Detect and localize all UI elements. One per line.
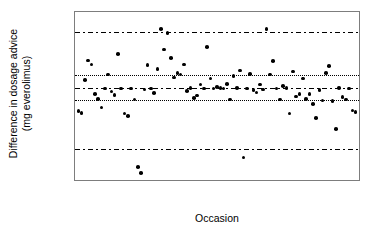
data-point bbox=[301, 77, 305, 81]
data-point bbox=[298, 92, 302, 96]
data-point bbox=[126, 114, 130, 118]
data-point bbox=[265, 27, 269, 31]
data-point bbox=[100, 106, 104, 110]
data-point bbox=[179, 73, 183, 77]
data-point bbox=[90, 63, 94, 67]
data-point bbox=[311, 102, 315, 106]
data-point bbox=[136, 165, 140, 169]
x-axis-tick bbox=[306, 180, 307, 181]
reference-line-lower-ci bbox=[75, 100, 359, 101]
data-point bbox=[275, 87, 279, 91]
data-point bbox=[116, 52, 120, 56]
data-point bbox=[291, 70, 295, 74]
data-point bbox=[242, 156, 246, 160]
data-point bbox=[238, 69, 242, 73]
data-point bbox=[199, 83, 203, 87]
data-point bbox=[143, 88, 147, 92]
y-axis-minor-tick bbox=[74, 51, 75, 52]
data-point bbox=[337, 86, 341, 90]
x-axis-tick bbox=[240, 180, 241, 181]
data-point bbox=[156, 67, 160, 71]
y-axis-title-wrapper: Difference in dosage advice (mg everolim… bbox=[0, 0, 40, 186]
data-point bbox=[172, 76, 176, 80]
data-point bbox=[261, 88, 265, 92]
data-point bbox=[185, 89, 189, 93]
y-axis-minor-tick bbox=[74, 129, 75, 130]
data-point bbox=[288, 112, 292, 116]
data-point bbox=[103, 87, 107, 91]
data-point bbox=[321, 99, 325, 103]
data-point bbox=[245, 87, 249, 91]
y-axis-tick bbox=[74, 32, 75, 33]
data-point bbox=[182, 63, 186, 67]
y-axis-title-line1: Difference in dosage advice bbox=[8, 28, 20, 157]
data-point bbox=[149, 87, 153, 91]
y-axis-tick bbox=[74, 71, 75, 72]
data-point bbox=[258, 83, 262, 87]
data-point bbox=[209, 77, 213, 81]
data-point bbox=[255, 91, 259, 95]
data-point bbox=[195, 94, 199, 98]
data-point bbox=[225, 82, 229, 86]
data-point bbox=[146, 63, 150, 67]
data-point bbox=[334, 127, 338, 131]
reference-line-lower-limit-of-agreement bbox=[75, 149, 359, 150]
data-point bbox=[248, 72, 252, 76]
data-point bbox=[169, 56, 173, 60]
reference-line-upper-ci bbox=[75, 75, 359, 76]
data-point bbox=[344, 98, 348, 102]
data-point bbox=[285, 86, 289, 90]
y-axis-minor-tick bbox=[74, 90, 75, 91]
data-point bbox=[205, 45, 209, 49]
scatter-plot-figure: Difference in dosage advice (mg everolim… bbox=[0, 0, 368, 236]
data-point bbox=[139, 171, 143, 175]
x-axis-tick bbox=[339, 180, 340, 181]
data-point bbox=[327, 64, 331, 68]
x-axis-tick bbox=[207, 180, 208, 181]
data-point bbox=[235, 86, 239, 90]
data-point bbox=[308, 92, 312, 96]
data-point bbox=[271, 59, 275, 63]
x-axis-tick bbox=[273, 180, 274, 181]
x-axis-title: Occasion bbox=[74, 212, 360, 224]
data-point bbox=[318, 88, 322, 92]
data-point bbox=[278, 98, 282, 102]
y-axis-tick bbox=[74, 149, 75, 150]
data-point bbox=[354, 110, 358, 114]
data-point bbox=[83, 78, 87, 82]
data-point bbox=[304, 97, 308, 101]
data-point bbox=[152, 91, 156, 95]
data-point bbox=[106, 73, 110, 77]
data-point bbox=[119, 87, 123, 91]
reference-line-upper-limit-of-agreement bbox=[75, 32, 359, 33]
data-point bbox=[347, 87, 351, 91]
data-point bbox=[86, 59, 90, 63]
x-axis-tick bbox=[141, 180, 142, 181]
data-point bbox=[314, 116, 318, 120]
data-point bbox=[113, 93, 117, 97]
y-axis-title: Difference in dosage advice (mg everolim… bbox=[8, 28, 33, 157]
data-point bbox=[268, 73, 272, 77]
data-point bbox=[222, 87, 226, 91]
plot-area: 0.750.25−0.25−0.751020304050607080 bbox=[74, 11, 360, 181]
x-axis-tick bbox=[108, 180, 109, 181]
data-point bbox=[162, 48, 166, 52]
y-axis-tick bbox=[74, 110, 75, 111]
data-point bbox=[80, 111, 84, 115]
data-point bbox=[166, 31, 170, 35]
data-point bbox=[202, 87, 206, 91]
x-axis-tick bbox=[174, 180, 175, 181]
data-point bbox=[324, 71, 328, 75]
data-point bbox=[232, 74, 236, 78]
data-point bbox=[93, 92, 97, 96]
data-point bbox=[159, 27, 163, 31]
data-point bbox=[331, 99, 335, 103]
data-point bbox=[189, 86, 193, 90]
data-point bbox=[96, 97, 100, 101]
data-point bbox=[129, 87, 133, 91]
y-axis-title-line2: (mg everolimus) bbox=[20, 28, 33, 157]
